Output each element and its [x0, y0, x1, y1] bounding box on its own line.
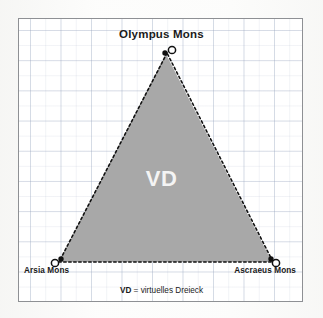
vertex-dot-arsia-mons — [58, 256, 63, 261]
triangle-plot — [19, 19, 303, 302]
vertex-marker-olympus-mons — [168, 46, 175, 53]
virtual-triangle-fill — [59, 54, 272, 262]
plot-frame — [18, 18, 303, 302]
vertex-label-olympus-mons: Olympus Mons — [0, 28, 323, 40]
caption-abbreviation: VD — [120, 286, 131, 295]
figure-root: VD Olympus Mons Arsia Mons Ascraeus Mons… — [0, 0, 323, 318]
vertex-dot-olympus-mons — [162, 50, 167, 55]
vertex-label-ascraeus-mons: Ascraeus Mons — [0, 266, 296, 275]
inner-label-vd: VD — [0, 166, 323, 192]
caption-definition: = virtuelles Dreieck — [131, 286, 203, 295]
figure-caption: VD = virtuelles Dreieck — [0, 286, 323, 295]
